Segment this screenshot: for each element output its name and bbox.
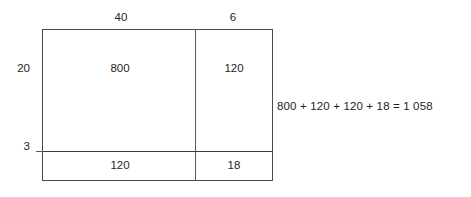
cell-value-row1-col1: 18 [204,159,264,172]
diagram-canvas: 40 6 20 3 800 120 120 18 800 + 120 + 120… [0,0,471,197]
cell-value-row0-col0: 800 [90,62,150,75]
column-divider [195,29,196,181]
cell-value-row0-col1: 120 [204,62,264,75]
row-divider [42,151,273,152]
column-label-1: 6 [212,11,254,24]
column-label-0: 40 [100,11,142,24]
row-label-1: 3 [2,140,30,153]
cell-value-row1-col0: 120 [90,159,150,172]
row-divider-tick [36,151,43,152]
row-label-0: 20 [2,62,30,75]
sum-equation: 800 + 120 + 120 + 18 = 1 058 [277,99,433,113]
